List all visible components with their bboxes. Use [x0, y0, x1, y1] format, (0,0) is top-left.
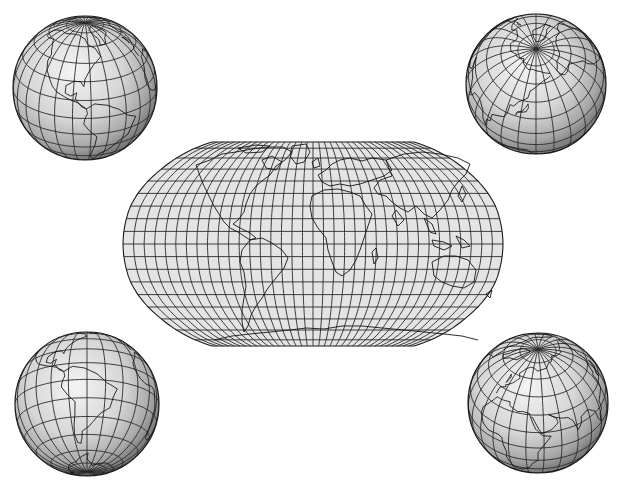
globe-bottom-left: [15, 332, 159, 476]
globe-top-right: [466, 14, 606, 154]
globe-top-left: [13, 16, 157, 160]
globe-bottom-right: [468, 333, 608, 473]
world-map: [123, 142, 503, 346]
world-projections-figure: [0, 0, 621, 492]
